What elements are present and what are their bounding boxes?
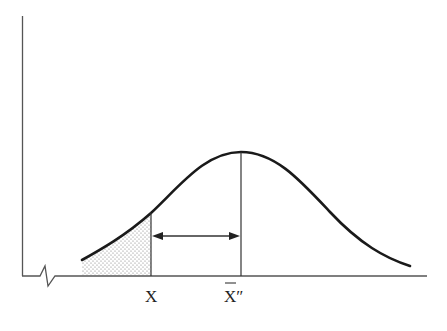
normal-distribution-diagram: X X″: [0, 0, 447, 331]
arrowhead-left-icon: [152, 232, 163, 240]
mean-label: X″: [224, 287, 243, 306]
arrowhead-right-icon: [229, 232, 240, 240]
x-label: X: [145, 287, 157, 306]
